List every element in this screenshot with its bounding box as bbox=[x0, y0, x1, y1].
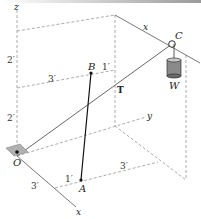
dim-A-1ft: 1′ bbox=[65, 174, 73, 184]
origin-label: O bbox=[13, 157, 21, 168]
x-direction-edge bbox=[115, 15, 200, 63]
floor-right-edge bbox=[115, 126, 186, 180]
mid-plane-edge bbox=[17, 70, 115, 88]
tension-T-label: T bbox=[117, 85, 124, 95]
statics-diagram: z x y x C W B A O T 2′ 2′ 3′ 1′ 3′ 1′ 3′ bbox=[0, 0, 201, 219]
weight-W-icon bbox=[167, 58, 181, 78]
point-A-label: A bbox=[78, 183, 86, 194]
dim-z-lower: 2′ bbox=[7, 113, 15, 123]
top-back-edge bbox=[17, 15, 115, 31]
dim-B-3ft: 3′ bbox=[48, 74, 56, 84]
reference-box bbox=[17, 10, 186, 188]
weight-label: W bbox=[169, 80, 180, 91]
dim-A-3ft: 3′ bbox=[31, 181, 39, 191]
dim-A-y-3ft: 3′ bbox=[120, 161, 128, 171]
x-axis-label: x bbox=[76, 207, 81, 217]
point-A bbox=[79, 178, 82, 181]
rod-AB bbox=[81, 73, 91, 180]
dim-B-1ft: 1′ bbox=[102, 62, 110, 72]
z-axis-label: z bbox=[13, 2, 19, 12]
y-axis bbox=[17, 117, 146, 156]
origin-point bbox=[15, 150, 19, 154]
point-C-label: C bbox=[175, 30, 183, 41]
base-plate bbox=[6, 144, 28, 156]
y-axis-label: y bbox=[146, 111, 153, 121]
x-top-label: x bbox=[143, 22, 148, 32]
point-B-label: B bbox=[87, 61, 95, 72]
dim-z-upper: 2′ bbox=[7, 55, 15, 65]
